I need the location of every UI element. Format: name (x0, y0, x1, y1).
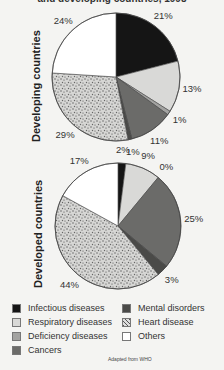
legend-item-infectious: Infectious diseases (12, 303, 105, 313)
slice-percent-label: 1% (173, 114, 187, 125)
slice-percent-label: 29% (56, 129, 76, 140)
swatch-others (122, 332, 131, 341)
pie-developing-countries: 21%13%1%11%1%29%24% (52, 10, 202, 157)
swatch-cancers (12, 346, 21, 355)
legend-item-heart: Heart disease (122, 317, 194, 327)
slice-percent-label: 11% (150, 135, 169, 146)
slice-percent-label: 17% (70, 155, 90, 166)
slice-percent-label: 13% (183, 83, 203, 94)
swatch-mental (122, 304, 131, 313)
slice-percent-label: 9% (141, 150, 155, 161)
pie-charts: 21%13%1%11%1%29%24% 2%9%0%25%3%44%17% (0, 0, 224, 370)
slice-percent-label: 21% (154, 10, 174, 21)
legend-item-cancers: Cancers (12, 345, 62, 355)
slice-percent-label: 0% (160, 161, 174, 172)
slice-percent-label: 24% (54, 15, 74, 26)
legend-item-mental: Mental disorders (122, 303, 205, 313)
swatch-heart (122, 318, 131, 327)
swatch-infectious (12, 304, 21, 313)
swatch-deficiency (12, 332, 21, 341)
slice-percent-label: 25% (184, 213, 204, 224)
legend-item-others: Others (122, 331, 165, 341)
pie-developed-countries: 2%9%0%25%3%44%17% (55, 144, 204, 289)
slice-percent-label: 44% (60, 279, 80, 290)
legend-item-respiratory: Respiratory diseases (12, 317, 112, 327)
legend-item-deficiency: Deficiency diseases (12, 331, 108, 341)
slice-percent-label: 2% (116, 144, 130, 155)
slice-percent-label: 3% (165, 274, 179, 285)
swatch-respiratory (12, 318, 21, 327)
source-credit: Adapted from WHO (108, 356, 152, 362)
